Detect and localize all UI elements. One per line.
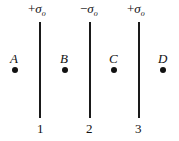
- sheet-1-charge-label: +σo: [28, 1, 46, 17]
- charged-sheet-2: [89, 22, 91, 118]
- point-a-label: A: [10, 51, 18, 67]
- point-c-dot: [111, 67, 117, 73]
- sheet-2-sigma: σ: [87, 1, 93, 16]
- sheet-3-charge-label: +σo: [127, 1, 145, 17]
- sheet-3-sigma: σ: [134, 1, 140, 16]
- point-b-label: B: [60, 51, 68, 67]
- sheet-3-number: 3: [135, 121, 142, 137]
- sheet-2-charge-label: −σo: [80, 1, 98, 17]
- charged-sheet-1: [39, 22, 41, 118]
- sheet-2-number: 2: [86, 121, 93, 137]
- point-a-dot: [12, 67, 18, 73]
- sheet-2-subscript: o: [94, 9, 98, 18]
- point-d-label: D: [158, 51, 167, 67]
- charged-sheet-3: [138, 22, 140, 118]
- point-d-dot: [160, 67, 166, 73]
- sheet-3-subscript: o: [141, 9, 145, 18]
- sheet-1-subscript: o: [42, 9, 46, 18]
- point-b-dot: [62, 67, 68, 73]
- sheet-1-sigma: σ: [35, 1, 41, 16]
- point-c-label: C: [109, 51, 118, 67]
- sheet-1-number: 1: [37, 121, 44, 137]
